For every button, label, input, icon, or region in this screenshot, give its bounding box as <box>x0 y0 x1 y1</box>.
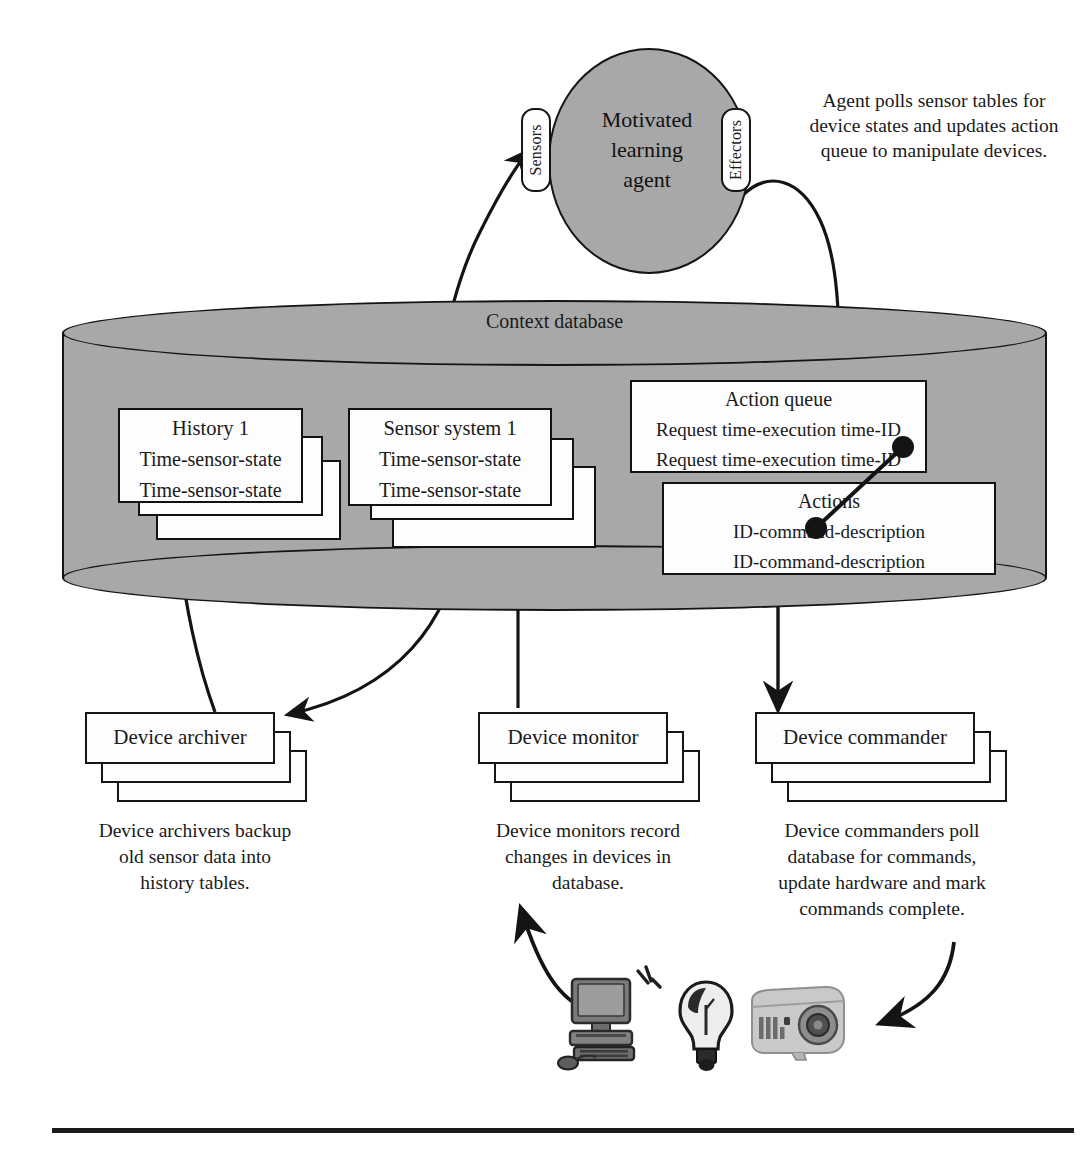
figure-canvas: Motivated learning agent Sensors Effecto… <box>0 0 1089 1155</box>
relation-endpoint-actions <box>805 517 827 539</box>
connector-layer-over <box>0 0 1089 1155</box>
relation-endpoint-action-queue <box>892 436 914 458</box>
relation-action-queue-to-actions <box>818 447 903 526</box>
